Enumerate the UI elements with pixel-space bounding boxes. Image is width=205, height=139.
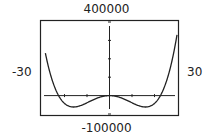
axes [44, 22, 175, 114]
graph-window [0, 0, 205, 139]
function-curve [45, 35, 177, 107]
